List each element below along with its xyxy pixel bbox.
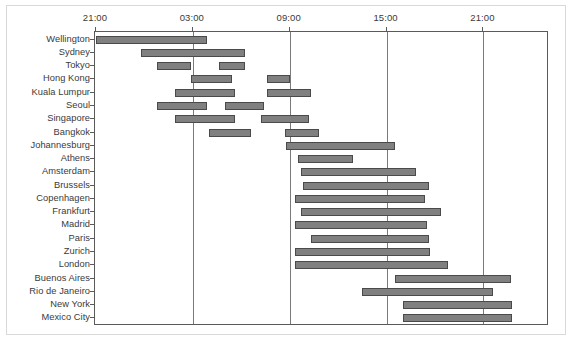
bar-kuala-lumpur-1 [175,89,235,97]
y-tick-label-madrid: Madrid [61,219,90,229]
y-tick-label-athens: Athens [61,153,90,163]
plot-area [94,31,548,325]
bar-new-york-1 [403,301,513,309]
y-tick-label-london: London [59,259,90,269]
y-tick-label-hong-kong: Hong Kong [43,73,90,83]
y-tick-label-new-york: New York [50,299,90,309]
y-tick-label-johannesburg: Johannesburg [30,140,90,150]
bar-seoul-1 [157,102,207,110]
gridline [387,32,388,324]
y-tick-label-rio-de-janeiro: Rio de Janeiro [29,286,90,296]
y-tick-label-brussels: Brussels [54,180,90,190]
y-tick-label-singapore: Singapore [47,113,90,123]
y-tick-label-paris: Paris [69,233,90,243]
y-tick-label-kuala-lumpur: Kuala Lumpur [32,87,90,97]
y-tick-label-wellington: Wellington [46,34,90,44]
bar-kuala-lumpur-2 [267,89,311,97]
y-tick-label-tokyo: Tokyo [65,60,90,70]
bar-london-1 [295,261,448,269]
bar-hong-kong-1 [191,75,231,83]
x-tick-label: 03:00 [180,12,204,23]
bar-bangkok-2 [285,129,319,137]
bar-mexico-city-1 [403,314,513,322]
y-tick-label-bangkok: Bangkok [53,127,90,137]
y-axis: WellingtonSydneyTokyoHong KongKuala Lump… [0,0,90,341]
y-tick-label-sydney: Sydney [59,47,90,57]
world-business-hours-chart: 21:0003:0009:0015:0021:00 WellingtonSydn… [0,0,574,341]
bar-rio-de-janeiro-1 [362,288,493,296]
y-tick-label-amsterdam: Amsterdam [42,166,90,176]
bar-copenhagen-1 [295,195,426,203]
x-tick-label: 15:00 [373,12,397,23]
bar-johannesburg-1 [286,142,394,150]
bar-sydney-1 [141,49,244,57]
bar-frankfurt-1 [301,208,441,216]
bar-seoul-2 [225,102,264,110]
bar-amsterdam-1 [301,168,416,176]
bar-tokyo-1 [157,62,191,70]
bar-bangkok-1 [209,129,251,137]
y-tick-label-mexico-city: Mexico City [41,312,90,322]
bar-paris-1 [311,235,429,243]
bar-brussels-1 [303,182,429,190]
y-tick-label-seoul: Seoul [66,100,90,110]
bar-zurich-1 [295,248,431,256]
bar-wellington-1 [96,36,207,44]
gridline [290,32,291,324]
y-tick-label-buenos-aires: Buenos Aires [35,273,90,283]
x-tick-label: 21:00 [470,12,494,23]
bar-madrid-1 [295,221,427,229]
y-tick-label-zurich: Zurich [64,246,90,256]
x-tick-label: 09:00 [277,12,301,23]
bar-singapore-2 [261,115,309,123]
bar-athens-1 [298,155,353,163]
bar-tokyo-2 [219,62,245,70]
bar-buenos-aires-1 [395,275,511,283]
y-tick-label-frankfurt: Frankfurt [52,206,90,216]
bar-singapore-1 [175,115,235,123]
bar-hong-kong-2 [267,75,290,83]
y-tick-label-copenhagen: Copenhagen [36,193,90,203]
